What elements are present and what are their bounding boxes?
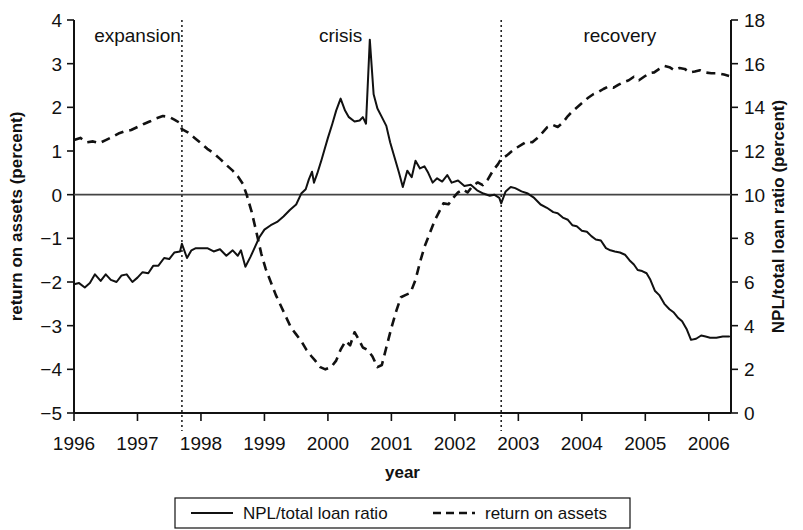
right-axis-tick-label: 18 bbox=[744, 10, 765, 31]
right-axis-tick-label: 0 bbox=[744, 403, 755, 424]
x-axis-tick-label: 2002 bbox=[434, 433, 476, 454]
right-axis-tick-label: 14 bbox=[744, 97, 766, 118]
left-axis-tick-label: 4 bbox=[51, 10, 62, 31]
x-axis-tick-label: 2004 bbox=[561, 433, 604, 454]
legend-label-npl-ratio: NPL/total loan ratio bbox=[243, 504, 388, 523]
right-axis-tick-label: 12 bbox=[744, 141, 765, 162]
right-axis-title: NPL/total loan ratio (percent) bbox=[769, 100, 788, 333]
x-axis-tick-label: 1996 bbox=[53, 433, 95, 454]
left-axis-tick-label: −1 bbox=[40, 228, 62, 249]
chart-canvas: 43210−1−2−3−4−51816141210864201996199719… bbox=[0, 0, 803, 530]
chart-figure: 43210−1−2−3−4−51816141210864201996199719… bbox=[0, 0, 803, 530]
left-axis-tick-label: 0 bbox=[51, 185, 62, 206]
left-axis-tick-label: −3 bbox=[40, 316, 62, 337]
period-annotation-label: crisis bbox=[319, 25, 362, 46]
left-axis-title: return on assets (percent) bbox=[7, 112, 26, 322]
left-axis-tick-label: 3 bbox=[51, 54, 62, 75]
right-axis-tick-label: 4 bbox=[744, 316, 755, 337]
x-axis-tick-label: 2003 bbox=[497, 433, 539, 454]
right-axis-tick-label: 6 bbox=[744, 272, 755, 293]
x-axis-tick-label: 1998 bbox=[180, 433, 222, 454]
period-annotation-label: recovery bbox=[583, 25, 656, 46]
left-axis-tick-label: −2 bbox=[40, 272, 62, 293]
x-axis-tick-label: 2006 bbox=[688, 433, 730, 454]
x-axis-title: year bbox=[385, 463, 420, 482]
left-axis-tick-label: 2 bbox=[51, 97, 62, 118]
right-axis-tick-label: 16 bbox=[744, 54, 765, 75]
left-axis-tick-label: −5 bbox=[40, 403, 62, 424]
left-axis-tick-label: −4 bbox=[40, 359, 62, 380]
series-line-npl-ratio bbox=[74, 40, 729, 340]
right-axis-tick-label: 10 bbox=[744, 185, 765, 206]
right-axis-tick-label: 8 bbox=[744, 228, 755, 249]
left-axis-tick-label: 1 bbox=[51, 141, 62, 162]
period-annotation-label: expansion bbox=[94, 25, 181, 46]
legend-label-return-on-assets: return on assets bbox=[485, 504, 607, 523]
right-axis-tick-label: 2 bbox=[744, 359, 755, 380]
x-axis-tick-label: 2005 bbox=[624, 433, 666, 454]
x-axis-tick-label: 2000 bbox=[307, 433, 349, 454]
x-axis-tick-label: 1997 bbox=[116, 433, 158, 454]
x-axis-tick-label: 1999 bbox=[243, 433, 285, 454]
series-line-return-on-assets bbox=[74, 66, 729, 369]
x-axis-tick-label: 2001 bbox=[370, 433, 412, 454]
